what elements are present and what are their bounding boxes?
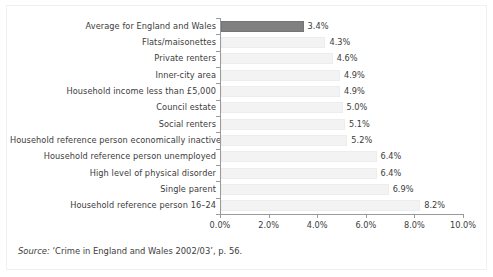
bar xyxy=(221,21,304,32)
y-axis-tick xyxy=(216,67,220,68)
x-axis-tick xyxy=(317,214,318,218)
y-axis-tick xyxy=(216,149,220,150)
y-axis-tick xyxy=(216,83,220,84)
bar-value-label: 5.0% xyxy=(347,103,368,112)
y-axis-tick xyxy=(216,34,220,35)
bar xyxy=(221,70,340,81)
bar-value-label: 4.6% xyxy=(337,54,358,63)
category-label: Household reference person 16–24 xyxy=(10,201,216,210)
bar-value-label: 6.4% xyxy=(381,152,402,161)
x-axis-tick-label: 6.0% xyxy=(342,220,390,230)
source-note: Source: ‘Crime in England and Wales 2002… xyxy=(18,246,242,257)
category-label: Household reference person economically … xyxy=(10,136,216,145)
y-axis-tick xyxy=(216,181,220,182)
bar-chart: Average for England and WalesFlats/maiso… xyxy=(0,0,493,240)
x-axis-tick-label: 2.0% xyxy=(245,220,293,230)
plot-area: 0.0%2.0%4.0%6.0%8.0%10.0%3.4%4.3%4.6%4.9… xyxy=(220,18,463,214)
source-text: ‘Crime in England and Wales 2002/03’, p.… xyxy=(52,246,242,256)
bar xyxy=(221,168,377,179)
x-axis-tick xyxy=(269,214,270,218)
bar xyxy=(221,135,347,146)
category-label: Social renters xyxy=(10,120,216,129)
bar-value-label: 5.1% xyxy=(349,120,370,129)
y-axis-tick xyxy=(216,198,220,199)
category-label: Average for England and Wales xyxy=(10,22,216,31)
bar-value-label: 6.9% xyxy=(393,185,414,194)
x-axis-tick-label: 4.0% xyxy=(293,220,341,230)
category-label: Single parent xyxy=(10,185,216,194)
bar xyxy=(221,151,377,162)
bar-value-label: 3.4% xyxy=(308,22,329,31)
category-label: Council estate xyxy=(10,103,216,112)
x-axis-line xyxy=(220,214,463,215)
bar xyxy=(221,119,345,130)
y-axis-tick xyxy=(216,51,220,52)
category-axis-labels: Average for England and WalesFlats/maiso… xyxy=(8,18,216,214)
bar-value-label: 4.3% xyxy=(329,38,350,47)
category-label: Household reference person unemployed xyxy=(10,152,216,161)
y-axis-tick xyxy=(216,165,220,166)
x-axis-tick-label: 8.0% xyxy=(390,220,438,230)
x-axis-tick-label: 0.0% xyxy=(196,220,244,230)
y-axis-tick xyxy=(216,100,220,101)
category-label: Private renters xyxy=(10,54,216,63)
bar xyxy=(221,102,343,113)
bar xyxy=(221,200,420,211)
category-label: Household income less than £5,000 xyxy=(10,87,216,96)
bar-value-label: 5.2% xyxy=(351,136,372,145)
bar xyxy=(221,53,333,64)
x-axis-tick xyxy=(220,214,221,218)
category-label: High level of physical disorder xyxy=(10,169,216,178)
bar xyxy=(221,37,325,48)
bar-value-label: 6.4% xyxy=(381,169,402,178)
y-axis-tick xyxy=(216,18,220,19)
bar xyxy=(221,86,340,97)
y-axis-tick xyxy=(216,116,220,117)
bar xyxy=(221,184,389,195)
bar-value-label: 8.2% xyxy=(424,201,445,210)
x-axis-tick xyxy=(463,214,464,218)
source-label: Source: xyxy=(18,246,50,256)
figure-container: Average for England and WalesFlats/maiso… xyxy=(0,0,493,277)
category-label: Flats/maisonettes xyxy=(10,38,216,47)
bar-value-label: 4.9% xyxy=(344,71,365,80)
bar-value-label: 4.9% xyxy=(344,87,365,96)
x-axis-tick xyxy=(366,214,367,218)
category-label: Inner-city area xyxy=(10,71,216,80)
y-axis-tick xyxy=(216,132,220,133)
x-axis-tick xyxy=(414,214,415,218)
x-axis-tick-label: 10.0% xyxy=(439,220,487,230)
